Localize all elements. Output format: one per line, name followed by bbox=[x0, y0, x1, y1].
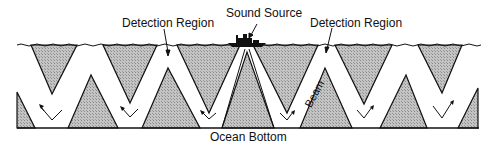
shadow-zone-top-5 bbox=[335, 45, 392, 104]
ship-icon bbox=[228, 34, 266, 47]
shadow-zone-bottom-c bbox=[142, 68, 200, 128]
shadow-zone-top-6 bbox=[418, 45, 462, 93]
sound-source-label: Sound Source bbox=[226, 7, 302, 19]
arrow-icon bbox=[433, 102, 452, 118]
ocean-bottom-label: Ocean Bottom bbox=[210, 131, 287, 143]
bottom-shadow-zones bbox=[17, 52, 478, 128]
sonar-diagram: Detection Region Sound Source Detection … bbox=[0, 0, 495, 147]
detection-region-label-left: Detection Region bbox=[122, 17, 214, 29]
shadow-zone-bottom-b bbox=[68, 75, 118, 128]
shadow-zone-bottom-a bbox=[17, 92, 35, 128]
shadow-zone-top-2 bbox=[103, 45, 157, 103]
arrow-icon bbox=[357, 107, 372, 118]
shadow-zone-bottom-f bbox=[380, 75, 427, 128]
diagram-graphic bbox=[0, 0, 495, 147]
arrow-icon bbox=[40, 106, 62, 120]
shadow-zone-bottom-g bbox=[458, 88, 478, 128]
arrow-icon bbox=[122, 108, 138, 117]
shadow-zone-top-1 bbox=[31, 45, 77, 94]
detection-region-label-right: Detection Region bbox=[310, 17, 402, 29]
